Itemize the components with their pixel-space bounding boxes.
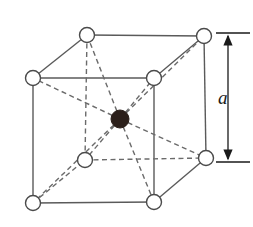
corner-atom-front-top-left <box>26 71 41 86</box>
corner-atom-front-top-right <box>147 71 162 86</box>
cube-edge-bottom-right-connector <box>154 158 206 202</box>
cube-hidden-edge-back-bottom <box>85 158 206 160</box>
corner-atom-back-top-right <box>197 29 212 44</box>
lattice-constant-label: a <box>218 88 228 107</box>
cube-edge-top-right-connector <box>154 36 204 78</box>
lattice-atoms <box>26 28 214 211</box>
cube-edge-top-left-connector <box>33 35 87 78</box>
body-diagonal-diag-to-back-top-left <box>87 35 120 119</box>
cube-hidden-edge-back-left <box>85 35 87 160</box>
body-diagonal-diag-to-front-bottom-left <box>33 119 120 203</box>
cube-edge-back-top <box>87 35 204 36</box>
cube-edge-back-right <box>204 36 206 158</box>
corner-atom-back-top-left <box>80 28 95 43</box>
corner-atom-front-bottom-right <box>147 195 162 210</box>
dimension-arrowhead-up <box>223 35 232 46</box>
corner-atom-front-bottom-left <box>26 196 41 211</box>
bcc-unit-cell-figure: a <box>0 0 253 227</box>
corner-atom-back-bottom-left <box>78 153 93 168</box>
corner-atom-back-bottom-right <box>199 151 214 166</box>
crystal-lattice-diagram <box>0 0 253 227</box>
cube-hidden-edge-bottom-left-connector <box>33 160 85 203</box>
dimension-arrowhead-down <box>223 150 232 161</box>
cube-edge-front-bottom <box>33 202 154 203</box>
center-atom-body-center <box>111 110 129 128</box>
body-diagonal-diag-to-front-bottom-right <box>120 119 154 202</box>
